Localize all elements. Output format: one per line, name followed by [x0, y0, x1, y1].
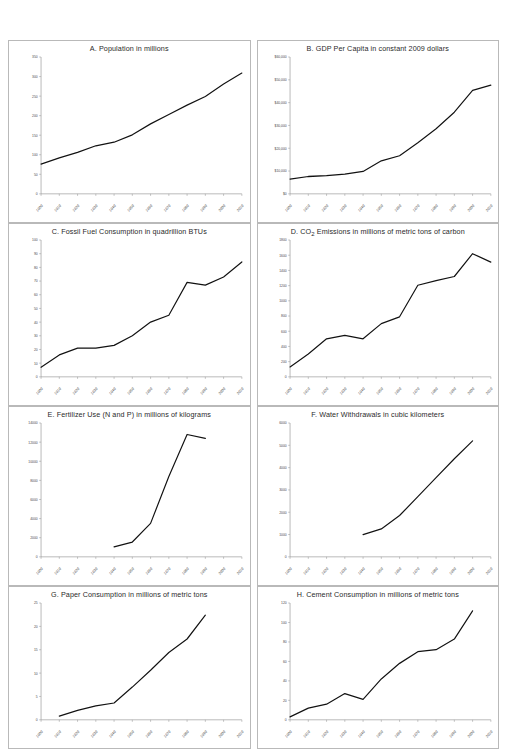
svg-text:2000: 2000 — [218, 730, 226, 739]
svg-text:0: 0 — [36, 555, 38, 559]
svg-text:0: 0 — [284, 375, 286, 379]
chart-panel-A: A. Population in millions 05010015020025… — [8, 40, 251, 223]
svg-text:1970: 1970 — [412, 730, 420, 739]
chart-panel-G: G. Paper Consumption in millions of metr… — [8, 586, 251, 749]
svg-text:1960: 1960 — [393, 387, 401, 396]
svg-text:2010: 2010 — [236, 204, 244, 213]
svg-text:1980: 1980 — [181, 204, 189, 213]
chart-label-G: G. — [51, 590, 59, 599]
svg-text:1930: 1930 — [90, 567, 98, 576]
svg-text:40: 40 — [34, 320, 38, 324]
chart-caption-B: GDP Per Capita in constant 2009 dollars — [316, 44, 449, 53]
chart-label-E: E. — [48, 410, 55, 419]
svg-text:1920: 1920 — [72, 567, 80, 576]
chart-title-F: F. Water Withdrawals in cubic kilometers — [258, 410, 499, 419]
svg-text:1960: 1960 — [393, 730, 401, 739]
chart-panel-C: C. Fossil Fuel Consumption in quadrillio… — [8, 223, 251, 406]
svg-text:100: 100 — [32, 153, 38, 157]
svg-text:2010: 2010 — [485, 387, 493, 396]
svg-text:12000: 12000 — [28, 440, 37, 444]
svg-text:1990: 1990 — [448, 567, 456, 576]
svg-text:1950: 1950 — [127, 204, 135, 213]
svg-text:80: 80 — [282, 640, 286, 644]
svg-text:2000: 2000 — [466, 567, 474, 576]
svg-text:120: 120 — [281, 601, 287, 605]
svg-text:10: 10 — [34, 671, 38, 675]
chart-title-H: H. Cement Consumption in millions of met… — [258, 590, 499, 599]
chart-panel-B: B. GDP Per Capita in constant 2009 dolla… — [257, 40, 500, 223]
svg-text:$20,000: $20,000 — [274, 147, 286, 151]
svg-text:20: 20 — [282, 699, 286, 703]
svg-text:1960: 1960 — [145, 567, 153, 576]
svg-text:1940: 1940 — [357, 204, 365, 213]
svg-text:1940: 1940 — [108, 387, 116, 396]
svg-text:1980: 1980 — [181, 730, 189, 739]
svg-text:150: 150 — [32, 134, 38, 138]
svg-text:1960: 1960 — [393, 567, 401, 576]
svg-text:70: 70 — [34, 279, 38, 283]
svg-text:$60,000: $60,000 — [274, 55, 286, 59]
chart-caption-A: Population in millions — [99, 44, 169, 53]
chart-plot-F: 0100020003000400050006000190019101920193… — [258, 419, 497, 585]
svg-text:1960: 1960 — [393, 204, 401, 213]
svg-text:50: 50 — [34, 173, 38, 177]
svg-text:1960: 1960 — [145, 387, 153, 396]
svg-text:1950: 1950 — [375, 730, 383, 739]
svg-text:2010: 2010 — [485, 204, 493, 213]
svg-text:1950: 1950 — [375, 387, 383, 396]
chart-plot-H: 0204060801001201900191019201930194019501… — [258, 599, 497, 748]
svg-text:400: 400 — [281, 345, 287, 349]
svg-text:1910: 1910 — [302, 567, 310, 576]
svg-text:$40,000: $40,000 — [274, 101, 286, 105]
svg-text:30: 30 — [34, 334, 38, 338]
svg-text:1970: 1970 — [163, 387, 171, 396]
chart-caption-H: Cement Consumption in millions of metric… — [306, 590, 459, 599]
svg-text:200: 200 — [281, 360, 287, 364]
chart-caption-C: Fossil Fuel Consumption in quadrillion B… — [61, 227, 207, 236]
svg-text:0: 0 — [284, 718, 286, 722]
svg-text:1930: 1930 — [339, 567, 347, 576]
svg-text:8000: 8000 — [30, 479, 38, 483]
chart-label-A: A. — [90, 44, 97, 53]
svg-text:5: 5 — [36, 695, 38, 699]
chart-label-B: B. — [307, 44, 314, 53]
svg-text:1940: 1940 — [108, 204, 116, 213]
svg-text:2010: 2010 — [236, 567, 244, 576]
svg-text:2000: 2000 — [218, 204, 226, 213]
svg-text:2010: 2010 — [485, 567, 493, 576]
svg-text:1910: 1910 — [302, 730, 310, 739]
svg-text:25: 25 — [34, 601, 38, 605]
svg-text:1990: 1990 — [448, 387, 456, 396]
svg-text:20: 20 — [34, 348, 38, 352]
svg-text:1990: 1990 — [448, 730, 456, 739]
svg-text:14000: 14000 — [28, 421, 37, 425]
svg-text:1980: 1980 — [430, 730, 438, 739]
chart-panel-E: E. Fertilizer Use (N and P) in millions … — [8, 406, 251, 586]
svg-text:6000: 6000 — [30, 498, 38, 502]
svg-text:1930: 1930 — [339, 730, 347, 739]
svg-text:40: 40 — [282, 679, 286, 683]
svg-text:10000: 10000 — [28, 460, 37, 464]
svg-text:1930: 1930 — [90, 204, 98, 213]
chart-label-H: H. — [297, 590, 304, 599]
svg-text:2000: 2000 — [218, 567, 226, 576]
svg-text:1960: 1960 — [145, 204, 153, 213]
svg-text:350: 350 — [32, 55, 38, 59]
chart-caption-E: Fertilizer Use (N and P) in millions of … — [57, 410, 211, 419]
svg-text:2000: 2000 — [279, 511, 287, 515]
chart-grid: A. Population in millions 05010015020025… — [8, 40, 499, 749]
svg-text:100: 100 — [281, 621, 287, 625]
chart-title-G: G. Paper Consumption in millions of metr… — [9, 590, 250, 599]
svg-text:1930: 1930 — [90, 387, 98, 396]
svg-text:90: 90 — [34, 252, 38, 256]
svg-text:$10,000: $10,000 — [274, 169, 286, 173]
svg-text:6000: 6000 — [279, 421, 287, 425]
svg-text:20: 20 — [34, 625, 38, 629]
svg-text:1970: 1970 — [163, 567, 171, 576]
chart-plot-E: 0200040006000800010000120001400019001910… — [9, 419, 248, 585]
svg-text:0: 0 — [36, 192, 38, 196]
svg-text:1000: 1000 — [279, 533, 287, 537]
svg-text:2010: 2010 — [236, 387, 244, 396]
svg-text:1910: 1910 — [54, 567, 62, 576]
svg-text:1910: 1910 — [54, 387, 62, 396]
